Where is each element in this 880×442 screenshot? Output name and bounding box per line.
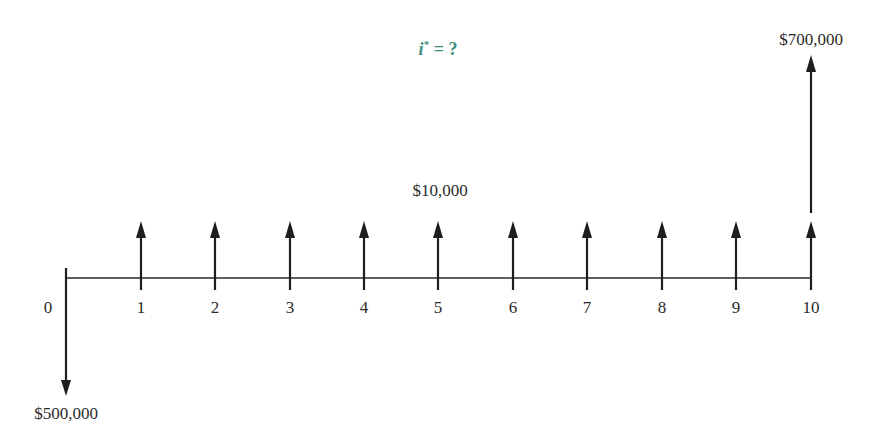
period-label-10: 10 bbox=[803, 298, 820, 318]
period-label-9: 9 bbox=[732, 298, 741, 318]
final-inflow-label: $700,000 bbox=[779, 30, 843, 50]
period-label-7: 7 bbox=[583, 298, 592, 318]
period-label-5: 5 bbox=[434, 298, 443, 318]
period-label-4: 4 bbox=[360, 298, 369, 318]
period-label-2: 2 bbox=[211, 298, 220, 318]
period-label-0: 0 bbox=[44, 298, 53, 318]
inflow-arrowheads bbox=[136, 221, 816, 238]
annual-inflow-label: $10,000 bbox=[412, 181, 467, 201]
period-label-8: 8 bbox=[658, 298, 667, 318]
unknown-rate-title: i* = ? bbox=[419, 38, 458, 60]
period-label-6: 6 bbox=[509, 298, 518, 318]
cash-flow-diagram bbox=[0, 0, 880, 442]
initial-outflow-label: $500,000 bbox=[34, 404, 98, 424]
period-label-1: 1 bbox=[137, 298, 146, 318]
period-label-3: 3 bbox=[286, 298, 295, 318]
inflow-arrows bbox=[141, 236, 811, 290]
